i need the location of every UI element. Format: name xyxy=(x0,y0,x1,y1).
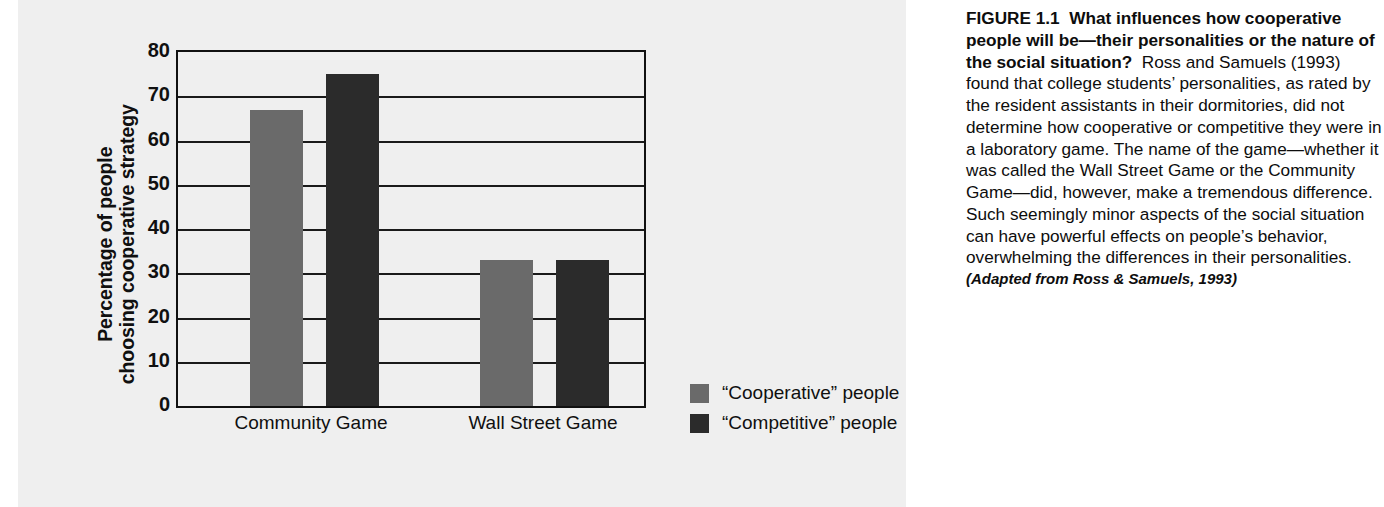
chart-legend: “Cooperative” people “Competitive” peopl… xyxy=(690,378,899,438)
plot-area xyxy=(176,50,646,408)
legend-label-cooperative: “Cooperative” people xyxy=(722,382,899,404)
bar-community-game-cooperative xyxy=(250,110,303,406)
y-tick-50: 50 xyxy=(116,171,170,194)
gridline-50 xyxy=(178,185,644,187)
gridline-40 xyxy=(178,229,644,231)
x-tick-wall-street-game: Wall Street Game xyxy=(408,412,678,434)
caption-text: FIGURE 1.1 What influences how cooperati… xyxy=(966,8,1384,269)
x-tick-community-game: Community Game xyxy=(176,412,446,434)
caption-figure-label: FIGURE 1.1 xyxy=(966,8,1060,28)
y-tick-80: 80 xyxy=(116,39,170,62)
bar-wall-street-game-cooperative xyxy=(480,260,533,406)
y-tick-60: 60 xyxy=(116,127,170,150)
bar-wall-street-game-competitive xyxy=(556,260,609,406)
figure-caption: FIGURE 1.1 What influences how cooperati… xyxy=(966,8,1384,289)
y-tick-70: 70 xyxy=(116,83,170,106)
legend-item-competitive: “Competitive” people xyxy=(690,408,899,438)
y-axis-tick-labels: 80 70 60 50 40 30 20 10 0 xyxy=(110,50,170,404)
legend-swatch-icon-cooperative xyxy=(690,384,709,403)
gridline-70 xyxy=(178,96,644,98)
caption-body-text: Ross and Samuels (1993) found that colle… xyxy=(966,52,1382,268)
bar-chart: Percentage of people choosing cooperativ… xyxy=(18,0,906,507)
gridline-60 xyxy=(178,141,644,143)
caption-source: (Adapted from Ross & Samuels, 1993) xyxy=(966,270,1384,289)
y-tick-40: 40 xyxy=(116,216,170,239)
legend-label-competitive: “Competitive” people xyxy=(722,412,897,434)
y-tick-0: 0 xyxy=(116,393,170,416)
legend-item-cooperative: “Cooperative” people xyxy=(690,378,899,408)
figure-panel: Percentage of people choosing cooperativ… xyxy=(18,0,906,507)
y-tick-20: 20 xyxy=(116,304,170,327)
y-tick-30: 30 xyxy=(116,260,170,283)
legend-swatch-icon-competitive xyxy=(690,414,709,433)
bar-community-game-competitive xyxy=(326,74,379,406)
y-tick-10: 10 xyxy=(116,348,170,371)
